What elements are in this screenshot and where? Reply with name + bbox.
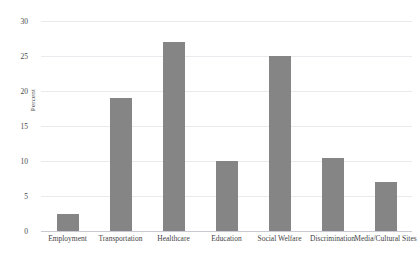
x-axis-labels: EmploymentTransportationHealthcareEducat… [41,234,412,274]
plot-area: 051015202530 [41,21,412,231]
bar [216,161,238,231]
y-tick-label: 30 [0,17,28,26]
bar [163,42,185,231]
axis-baseline [41,231,412,232]
bar [375,182,397,231]
y-tick-label: 10 [0,157,28,166]
bar-chart: Percent 051015202530 EmploymentTransport… [0,0,420,275]
gridline [41,56,412,57]
bar [110,98,132,231]
x-tick-label: Media/Cultural Sites [343,234,420,244]
gridline [41,21,412,22]
y-tick-label: 25 [0,52,28,61]
y-axis-title: Percent [29,70,37,130]
bar [322,158,344,232]
bar [269,56,291,231]
y-tick-label: 15 [0,122,28,131]
gridline [41,126,412,127]
bar [57,214,79,232]
gridline [41,91,412,92]
y-tick-label: 5 [0,192,28,201]
y-tick-label: 20 [0,87,28,96]
